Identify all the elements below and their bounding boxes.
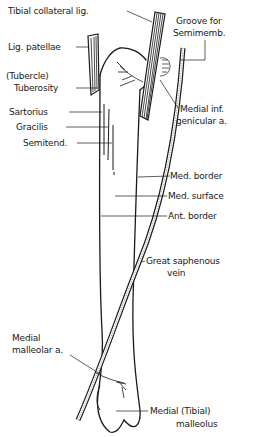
tibial-collateral-ligament [140,12,165,120]
label-medial-inf-genicular-2: genicular a. [176,116,227,126]
label-medial-malleolar-1: Medial [12,333,40,343]
label-groove-semimemb-1: Groove for [176,16,222,26]
insertion-marks [104,104,114,175]
label-medial-malleolus-1: Medial (Tibial) [150,406,210,416]
tibial-head-outline [100,48,146,75]
label-lig-patellae: Lig. patellae [8,42,61,52]
label-medial-malleolus-2: malleolus [176,419,217,429]
label-ant-border: Ant. border [168,211,217,221]
label-groove-semimemb-2: Semimemb. [173,28,225,38]
label-tibial-collateral-ligament: Tibial collateral lig. [8,6,89,16]
label-great-saphenous-2: vein [167,268,185,278]
ligamentum-patellae [88,34,99,95]
label-medial-malleolar-2: malleolar a. [12,345,63,355]
label-sartorius: Sartorius [9,107,48,117]
anterior-border-line [98,75,125,432]
label-medial-inf-genicular-1: Medial inf. [180,104,224,114]
great-saphenous-vein [78,48,183,420]
label-great-saphenous-1: Great saphenous [146,256,220,266]
label-med-surface: Med. surface [168,191,224,201]
label-tubercle: (Tubercle) [6,71,49,81]
label-gracilis: Gracilis [16,122,48,132]
label-semitend: Semitend. [23,138,67,148]
tibia-diagram: Tibial collateral lig. Groove for Semime… [0,0,253,437]
genicular-artery [117,62,143,86]
label-tuberosity: Tuberosity [14,83,58,93]
label-med-border: Med. border [170,171,222,181]
medial-border-line [124,90,140,427]
semimembranosus-groove [160,58,170,76]
